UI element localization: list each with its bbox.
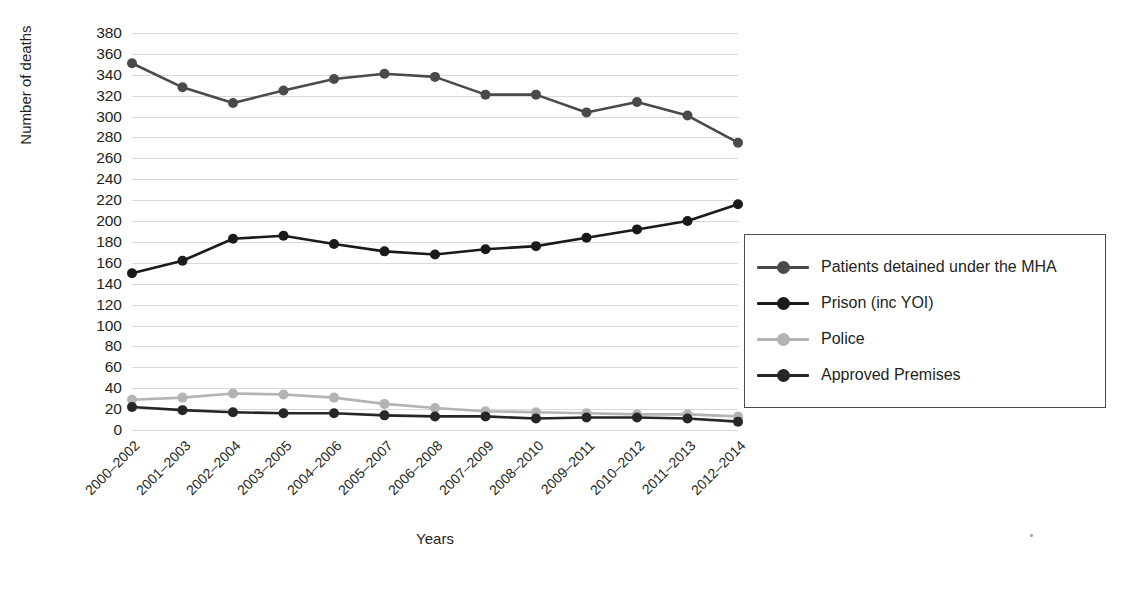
data-point[interactable]: [683, 414, 693, 424]
legend-swatch-icon: [757, 330, 809, 348]
y-axis-tick-label: 360: [96, 46, 122, 62]
line-chart-figure: Number of deaths 02040608010012014016018…: [0, 0, 1138, 592]
data-point[interactable]: [228, 98, 238, 108]
legend-item-label: Police: [821, 330, 865, 348]
data-point[interactable]: [178, 256, 188, 266]
data-point[interactable]: [733, 199, 743, 209]
y-axis-tick-label: 280: [96, 130, 122, 146]
series-2: [127, 199, 743, 278]
data-point[interactable]: [228, 234, 238, 244]
series-layer: [132, 33, 738, 430]
data-point[interactable]: [531, 90, 541, 100]
x-axis-tick-labels: 2000–20022001–20032002–20042003–20052004…: [132, 432, 738, 532]
legend-item[interactable]: Approved Premises: [745, 357, 1105, 393]
data-point[interactable]: [329, 408, 339, 418]
data-point[interactable]: [430, 249, 440, 259]
y-axis-tick-label: 380: [96, 25, 122, 41]
y-axis-tick-label: 320: [96, 88, 122, 104]
legend-item[interactable]: Patients detained under the MHA: [745, 249, 1105, 285]
data-point[interactable]: [279, 85, 289, 95]
legend-item-label: Prison (inc YOI): [821, 294, 934, 312]
legend-item[interactable]: Police: [745, 321, 1105, 357]
data-point[interactable]: [531, 241, 541, 251]
data-point[interactable]: [683, 216, 693, 226]
legend-swatch-icon: [757, 294, 809, 312]
data-point[interactable]: [481, 90, 491, 100]
data-point[interactable]: [127, 402, 137, 412]
data-point[interactable]: [430, 72, 440, 82]
y-axis-title: Number of deaths: [17, 0, 34, 180]
plot-area: [132, 33, 738, 430]
data-point[interactable]: [733, 417, 743, 427]
y-axis-tick-label: 300: [96, 109, 122, 125]
data-point[interactable]: [329, 74, 339, 84]
data-point[interactable]: [632, 412, 642, 422]
y-axis-tick-label: 60: [105, 360, 122, 376]
data-point[interactable]: [279, 408, 289, 418]
legend-item-label: Patients detained under the MHA: [821, 258, 1057, 276]
y-axis-tick-label: 160: [96, 255, 122, 271]
gridline: [132, 430, 738, 431]
x-axis-title: Years: [132, 530, 738, 547]
data-point[interactable]: [228, 407, 238, 417]
y-axis-tick-label: 80: [105, 339, 122, 355]
data-point[interactable]: [228, 388, 238, 398]
x-axis-tick-label: 2000–2002: [82, 438, 141, 497]
data-point[interactable]: [481, 411, 491, 421]
chart-legend: Patients detained under the MHAPrison (i…: [744, 234, 1106, 408]
legend-item-label: Approved Premises: [821, 366, 961, 384]
scan-artifact-speck: [1030, 534, 1033, 537]
data-point[interactable]: [329, 239, 339, 249]
data-point[interactable]: [481, 244, 491, 254]
data-point[interactable]: [582, 233, 592, 243]
data-point[interactable]: [380, 69, 390, 79]
data-point[interactable]: [127, 268, 137, 278]
y-axis-tick-labels: 0204060801001201401601802002202402602803…: [60, 33, 122, 430]
series-line: [132, 204, 738, 273]
y-axis-tick-label: 120: [96, 297, 122, 313]
legend-item[interactable]: Prison (inc YOI): [745, 285, 1105, 321]
data-point[interactable]: [380, 399, 390, 409]
y-axis-tick-label: 20: [105, 401, 122, 417]
data-point[interactable]: [127, 58, 137, 68]
data-point[interactable]: [178, 393, 188, 403]
data-point[interactable]: [279, 389, 289, 399]
legend-swatch-icon: [757, 258, 809, 276]
data-point[interactable]: [582, 412, 592, 422]
y-axis-tick-label: 100: [96, 318, 122, 334]
data-point[interactable]: [632, 224, 642, 234]
y-axis-tick-label: 0: [113, 422, 122, 438]
data-point[interactable]: [329, 393, 339, 403]
y-axis-tick-label: 340: [96, 67, 122, 83]
data-point[interactable]: [531, 414, 541, 424]
data-point[interactable]: [683, 111, 693, 121]
data-point[interactable]: [380, 410, 390, 420]
data-point[interactable]: [178, 405, 188, 415]
series-1: [127, 58, 743, 147]
y-axis-tick-label: 200: [96, 213, 122, 229]
y-axis-tick-label: 220: [96, 192, 122, 208]
data-point[interactable]: [733, 138, 743, 148]
data-point[interactable]: [582, 107, 592, 117]
legend-swatch-icon: [757, 366, 809, 384]
data-point[interactable]: [430, 411, 440, 421]
data-point[interactable]: [279, 231, 289, 241]
data-point[interactable]: [380, 246, 390, 256]
y-axis-tick-label: 180: [96, 234, 122, 250]
data-point[interactable]: [632, 97, 642, 107]
y-axis-tick-label: 260: [96, 151, 122, 167]
y-axis-tick-label: 140: [96, 276, 122, 292]
data-point[interactable]: [178, 82, 188, 92]
y-axis-tick-label: 40: [105, 380, 122, 396]
y-axis-tick-label: 240: [96, 172, 122, 188]
